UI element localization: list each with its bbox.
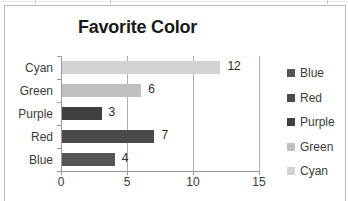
legend-item-red[interactable]: Red [287, 91, 348, 105]
bar-row: 4 [62, 148, 260, 171]
y-tick-4 [57, 148, 61, 149]
legend-swatch-icon-purple [287, 118, 295, 126]
legend-item-cyan[interactable]: Cyan [287, 164, 348, 178]
chart-container[interactable]: Favorite Color CyanGreenPurpleRedBlue 12… [4, 5, 346, 198]
y-tick-1 [57, 79, 61, 80]
legend-item-green[interactable]: Green [287, 140, 348, 154]
legend-item-purple[interactable]: Purple [287, 115, 348, 129]
bar-value-label-red: 7 [161, 128, 168, 142]
y-tick-0 [57, 56, 61, 57]
bar-row: 6 [62, 79, 260, 102]
legend-label: Cyan [300, 164, 328, 178]
y-tick-3 [57, 125, 61, 126]
bar-value-label-purple: 3 [109, 105, 116, 119]
legend-swatch-icon-cyan [287, 167, 295, 175]
bar-red[interactable] [62, 130, 154, 143]
x-tick-label-5: 5 [124, 175, 131, 189]
x-axis-line [61, 171, 260, 172]
x-tick-label-0: 0 [58, 175, 65, 189]
bar-cyan[interactable] [62, 61, 220, 74]
bar-value-label-blue: 4 [122, 151, 129, 165]
plot-wrapper: CyanGreenPurpleRedBlue 126374 051015 Blu… [5, 6, 347, 198]
legend-label: Blue [300, 66, 324, 80]
bar-row: 12 [62, 56, 260, 79]
y-axis-label-cyan: Cyan [9, 56, 59, 79]
legend-swatch-icon-blue [287, 69, 295, 77]
legend-item-blue[interactable]: Blue [287, 66, 348, 80]
y-axis-label-red: Red [9, 125, 59, 148]
legend-swatch-icon-red [287, 94, 295, 102]
chart-legend[interactable]: BlueRedPurpleGreenCyan [287, 66, 348, 178]
y-tick-2 [57, 102, 61, 103]
bar-value-label-cyan: 12 [227, 59, 240, 73]
x-tick-label-15: 15 [252, 175, 265, 189]
cropped-edge-artifact [0, 1, 348, 2]
bar-row: 3 [62, 102, 260, 125]
legend-label: Purple [300, 115, 335, 129]
y-axis-label-green: Green [9, 79, 59, 102]
bar-purple[interactable] [62, 107, 102, 120]
bar-value-label-green: 6 [148, 82, 155, 96]
y-axis-label-blue: Blue [9, 148, 59, 171]
legend-label: Green [300, 140, 333, 154]
bar-green[interactable] [62, 84, 141, 97]
y-tick-5 [57, 171, 61, 172]
bar-row: 7 [62, 125, 260, 148]
y-axis-category-labels: CyanGreenPurpleRedBlue [9, 56, 59, 171]
y-axis-label-purple: Purple [9, 102, 59, 125]
x-axis-tick-labels: 051015 [61, 175, 259, 191]
x-tick-label-10: 10 [186, 175, 199, 189]
legend-label: Red [300, 91, 322, 105]
legend-swatch-icon-green [287, 143, 295, 151]
bar-blue[interactable] [62, 153, 115, 166]
plot-area: 126374 [61, 56, 259, 171]
